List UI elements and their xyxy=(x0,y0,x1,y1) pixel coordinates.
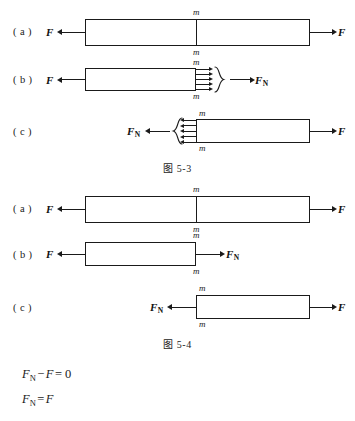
section-label-m-bottom-fig1-panel-c: m xyxy=(199,144,206,153)
force-label-right-fig2-panel-c: F xyxy=(338,302,345,313)
force-arrow-left-fig1-panel-b xyxy=(62,79,85,80)
panel-label-a-fig1: ( a ) xyxy=(13,26,32,37)
resultant-force-subscript: N xyxy=(263,79,268,88)
equation-operator-equals: = xyxy=(36,392,46,406)
distributed-force-arrow xyxy=(196,69,209,70)
section-label-m-top-fig1-panel-b: m xyxy=(193,58,200,67)
resultant-force-symbol: F xyxy=(150,301,157,313)
force-arrow-right-fig1-panel-c xyxy=(310,131,332,132)
resultant-force-label-fig2-panel-c: FN xyxy=(150,302,163,313)
resultant-force-arrow-fig2-panel-c xyxy=(172,307,196,308)
equation-lhs-symbol: F xyxy=(22,392,30,406)
distributed-force-arrow xyxy=(196,84,209,85)
figure-page: ( a ) m m F F ( b ) m m F FN ( c ) m m xyxy=(0,0,355,421)
section-cut-line-fig1-panel-a xyxy=(196,19,197,46)
force-label-left-fig1-panel-b: F xyxy=(46,75,53,86)
equation-equilibrium: FN−F=0 xyxy=(22,368,73,381)
bar-fig2-panel-a xyxy=(85,196,310,223)
distributed-force-arrow xyxy=(196,79,209,80)
distributed-force-arrow xyxy=(184,142,197,143)
force-arrow-left-fig2-panel-a xyxy=(62,209,85,210)
section-label-m-top-fig1-panel-a: m xyxy=(193,8,200,17)
section-label-m-bottom-fig1-panel-a: m xyxy=(193,48,200,57)
equation-lhs-subscript: N xyxy=(30,398,36,408)
equation-lhs-subscript: N xyxy=(30,373,36,383)
equation-result: FN=F xyxy=(22,393,53,406)
figure-caption-fig2: 图 5-4 xyxy=(0,336,355,351)
bar-fig2-panel-c xyxy=(196,295,310,319)
force-label-left-fig2-panel-b: F xyxy=(46,249,53,260)
bar-fig1-panel-b xyxy=(85,68,196,91)
force-label-right-fig2-panel-a: F xyxy=(338,204,345,215)
bar-fig1-panel-c xyxy=(196,119,310,143)
resultant-force-label-fig1-panel-c: FN xyxy=(127,126,140,137)
resultant-force-label-fig2-panel-b: FN xyxy=(226,249,239,260)
section-label-m-top-fig2-panel-a: m xyxy=(193,185,200,194)
section-label-m-bottom-fig1-panel-b: m xyxy=(193,92,200,101)
resultant-force-arrow-fig1-panel-c xyxy=(150,131,170,132)
equation-rhs: F xyxy=(46,392,54,406)
equation-lhs-symbol: F xyxy=(22,367,30,381)
force-label-left-fig2-panel-a: F xyxy=(46,204,53,215)
resultant-force-subscript: N xyxy=(135,130,140,139)
figure-caption-fig1: 图 5-3 xyxy=(0,160,355,175)
force-label-right-fig1-panel-c: F xyxy=(338,126,345,137)
force-arrow-right-fig1-panel-a xyxy=(310,32,332,33)
section-label-m-bottom-fig2-panel-b: m xyxy=(193,267,200,276)
force-arrow-right-fig2-panel-a xyxy=(310,209,332,210)
resultant-force-symbol: F xyxy=(226,248,233,260)
force-arrow-left-fig2-panel-b xyxy=(62,254,85,255)
section-label-m-top-fig1-panel-c: m xyxy=(199,109,206,118)
force-label-right-fig1-panel-a: F xyxy=(338,27,345,38)
distributed-force-arrow xyxy=(196,74,209,75)
equation-operator-equals: = xyxy=(53,367,63,381)
distributed-force-arrow xyxy=(184,136,197,137)
section-label-m-top-fig2-panel-b: m xyxy=(193,231,200,240)
resultant-force-arrow-fig1-panel-b xyxy=(230,79,250,80)
force-arrow-right-fig2-panel-c xyxy=(310,307,332,308)
resultant-force-subscript: N xyxy=(158,306,163,315)
force-arrow-left-fig1-panel-a xyxy=(62,32,85,33)
brace-left-fig1-panel-c xyxy=(172,117,183,145)
panel-label-a-fig2: ( a ) xyxy=(13,203,32,214)
force-label-left-fig1-panel-a: F xyxy=(46,27,53,38)
resultant-force-symbol: F xyxy=(127,125,134,137)
panel-label-b-fig2: ( b ) xyxy=(13,249,33,260)
section-label-m-top-fig2-panel-c: m xyxy=(199,284,206,293)
distributed-force-arrow xyxy=(184,120,197,121)
equation-operator-minus: − xyxy=(36,367,46,381)
distributed-force-arrow xyxy=(184,131,197,132)
resultant-force-arrow-fig2-panel-b xyxy=(196,254,220,255)
distributed-force-arrow xyxy=(184,125,197,126)
panel-label-b-fig1: ( b ) xyxy=(13,74,33,85)
distributed-force-arrow xyxy=(196,89,209,90)
section-cut-line-fig2-panel-a xyxy=(196,196,197,223)
section-label-m-bottom-fig2-panel-c: m xyxy=(199,320,206,329)
bar-fig2-panel-b xyxy=(85,242,196,266)
panel-label-c-fig2: ( c ) xyxy=(13,302,32,313)
resultant-force-subscript: N xyxy=(234,253,239,262)
panel-label-c-fig1: ( c ) xyxy=(13,126,32,137)
brace-right-fig1-panel-b xyxy=(214,66,225,93)
resultant-force-symbol: F xyxy=(255,74,262,86)
equation-rhs: 0 xyxy=(64,367,73,381)
resultant-force-label-fig1-panel-b: FN xyxy=(255,75,268,86)
bar-fig1-panel-a xyxy=(85,19,310,46)
